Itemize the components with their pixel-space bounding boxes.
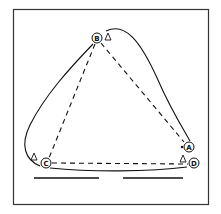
node-c-label: C (43, 160, 48, 168)
node-d-label: D (191, 160, 197, 168)
triangle-marker-icon (180, 155, 186, 162)
node-c: C (41, 158, 51, 168)
dashed-edge-b-c (49, 44, 95, 158)
dashed-edge-c-d (52, 163, 188, 164)
node-a: A (184, 142, 194, 152)
triangle-marker-icon (31, 153, 37, 160)
node-b: B (92, 33, 102, 43)
node-a-label: A (186, 144, 192, 152)
node-d: D (189, 158, 199, 168)
node-b-label: B (94, 35, 99, 43)
route-diagram: B A D C (0, 0, 221, 214)
dot-marker-icon (181, 146, 183, 148)
diagram-frame (14, 10, 209, 205)
dashed-edge-b-a (101, 43, 184, 142)
triangle-marker-icon (105, 33, 111, 40)
